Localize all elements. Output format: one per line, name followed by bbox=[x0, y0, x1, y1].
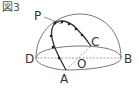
label-b: B bbox=[124, 53, 132, 65]
hemisphere-diagram: 図3 P C D O B A bbox=[0, 0, 139, 88]
sun-position-dots bbox=[50, 21, 84, 60]
label-a: A bbox=[60, 73, 68, 85]
label-d: D bbox=[25, 53, 34, 65]
label-c: C bbox=[91, 36, 99, 48]
label-o: O bbox=[77, 58, 86, 70]
dome-outline bbox=[36, 14, 121, 58]
label-p: P bbox=[34, 10, 41, 22]
figure-title: 図3 bbox=[2, 2, 20, 14]
hemisphere-svg bbox=[0, 0, 139, 88]
